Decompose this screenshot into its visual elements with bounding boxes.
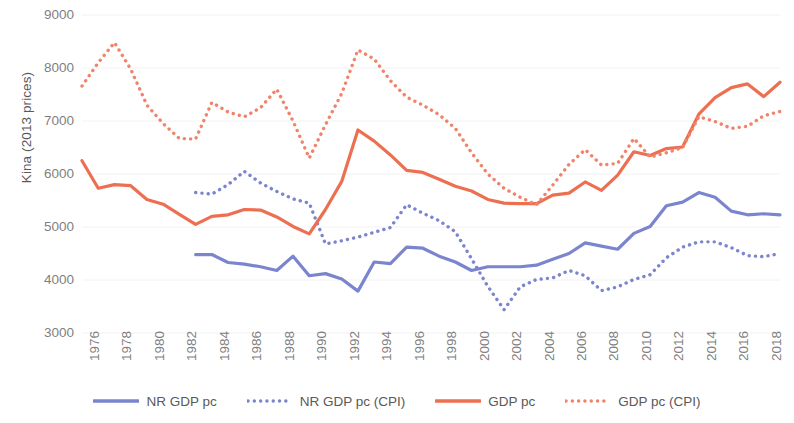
- x-tick-label: 1988: [283, 331, 297, 383]
- y-tick-label: 5000: [28, 220, 74, 234]
- series-line: [196, 171, 780, 309]
- y-tick-label: 7000: [28, 114, 74, 128]
- x-tick-label: 1992: [348, 331, 362, 383]
- legend-item[interactable]: GDP pc: [435, 394, 535, 409]
- chart-legend: NR GDP pcNR GDP pc (CPI)GDP pcGDP pc (CP…: [0, 388, 794, 414]
- x-tick-label: 1990: [315, 331, 329, 383]
- x-tick-label: 2010: [640, 331, 654, 383]
- x-tick-label: 1976: [88, 331, 102, 383]
- y-tick-label: 3000: [28, 326, 74, 340]
- x-tick-label: 2018: [770, 331, 784, 383]
- legend-item[interactable]: GDP pc (CPI): [565, 394, 700, 409]
- x-tick-label: 1978: [120, 331, 134, 383]
- series-line: [82, 82, 780, 234]
- x-tick-label: 1986: [250, 331, 264, 383]
- x-axis-tick-labels: 1976197819801982198419861988199019921994…: [82, 333, 780, 385]
- x-tick-label: 2012: [672, 331, 686, 383]
- x-tick-label: 1994: [380, 331, 394, 383]
- x-tick-label: 2014: [705, 331, 719, 383]
- line-chart: Kina (2013 prices) 900080007000600050004…: [0, 0, 794, 423]
- x-tick-label: 1982: [185, 331, 199, 383]
- plot-area: [82, 15, 780, 333]
- y-tick-label: 4000: [28, 273, 74, 287]
- y-axis-tick-labels: 9000800070006000500040003000: [22, 0, 74, 423]
- x-tick-label: 1980: [153, 331, 167, 383]
- x-tick-label: 2016: [737, 331, 751, 383]
- plot-svg: [82, 15, 780, 333]
- legend-label: NR GDP pc: [146, 394, 216, 409]
- legend-swatch-icon: [93, 396, 139, 406]
- legend-label: GDP pc: [488, 394, 535, 409]
- x-tick-label: 2004: [543, 331, 557, 383]
- x-tick-label: 2008: [607, 331, 621, 383]
- x-tick-label: 1984: [218, 331, 232, 383]
- legend-swatch-icon: [435, 396, 481, 406]
- series-line: [196, 193, 780, 292]
- legend-swatch-icon: [565, 396, 611, 406]
- x-tick-label: 2000: [478, 331, 492, 383]
- y-tick-label: 8000: [28, 61, 74, 75]
- legend-item[interactable]: NR GDP pc (CPI): [247, 394, 406, 409]
- legend-label: NR GDP pc (CPI): [300, 394, 406, 409]
- legend-swatch-icon: [247, 396, 293, 406]
- legend-label: GDP pc (CPI): [618, 394, 700, 409]
- y-tick-label: 6000: [28, 167, 74, 181]
- x-tick-label: 2006: [575, 331, 589, 383]
- legend-item[interactable]: NR GDP pc: [93, 394, 216, 409]
- x-tick-label: 1998: [445, 331, 459, 383]
- x-tick-label: 1996: [413, 331, 427, 383]
- y-tick-label: 9000: [28, 8, 74, 22]
- x-tick-label: 2002: [510, 331, 524, 383]
- series-line: [82, 43, 780, 205]
